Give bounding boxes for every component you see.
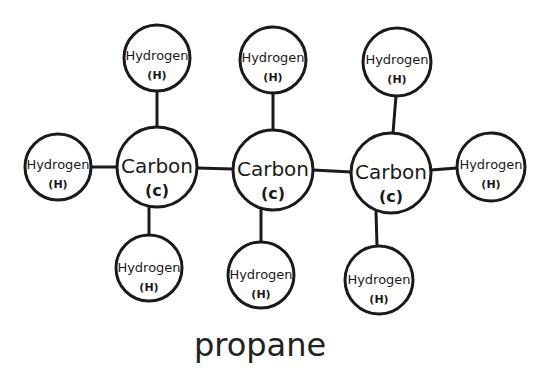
diagram-caption: propane <box>0 326 520 364</box>
svg-text:(H): (H) <box>387 73 406 86</box>
bond-c3-hright <box>431 168 457 170</box>
svg-text:Hydrogen: Hydrogen <box>241 50 304 65</box>
atom-hydrogen-bottom-3: Hydrogen (H) <box>345 246 413 314</box>
atom-hydrogen-top-3: Hydrogen (H) <box>363 28 431 96</box>
svg-text:(H): (H) <box>48 178 67 191</box>
atom-carbon-3: Carbon (c) <box>351 133 431 213</box>
svg-text:(H): (H) <box>139 281 158 294</box>
svg-text:(c): (c) <box>261 184 285 203</box>
bond-c3-hbottom3 <box>376 212 377 246</box>
bond-c2-c3 <box>313 170 351 172</box>
bond-c3-htop3 <box>393 96 396 133</box>
svg-text:Hydrogen: Hydrogen <box>459 157 522 172</box>
svg-text:Hydrogen: Hydrogen <box>365 52 428 67</box>
svg-text:Hydrogen: Hydrogen <box>125 48 188 63</box>
svg-text:Hydrogen: Hydrogen <box>117 260 180 275</box>
svg-text:(H): (H) <box>147 69 166 82</box>
atom-hydrogen-top-1: Hydrogen (H) <box>124 25 190 91</box>
atom-hydrogen-top-2: Hydrogen (H) <box>240 27 306 93</box>
bond-c1-c2 <box>197 168 233 169</box>
atom-hydrogen-left: Hydrogen (H) <box>25 134 91 200</box>
svg-text:Hydrogen: Hydrogen <box>26 157 89 172</box>
svg-text:Hydrogen: Hydrogen <box>347 272 410 287</box>
svg-text:Carbon: Carbon <box>237 157 309 181</box>
svg-text:(H): (H) <box>263 71 282 84</box>
svg-text:(H): (H) <box>251 288 270 301</box>
svg-text:Carbon: Carbon <box>355 160 427 184</box>
atom-carbon-1: Carbon (c) <box>117 127 197 207</box>
atom-carbon-2: Carbon (c) <box>233 130 313 210</box>
svg-text:Hydrogen: Hydrogen <box>229 267 292 282</box>
svg-text:Carbon: Carbon <box>121 154 193 178</box>
svg-text:(H): (H) <box>481 178 500 191</box>
svg-text:(c): (c) <box>145 181 169 200</box>
svg-text:(c): (c) <box>379 187 403 206</box>
atom-hydrogen-bottom-1: Hydrogen (H) <box>116 235 182 301</box>
atom-hydrogen-bottom-2: Hydrogen (H) <box>228 242 294 308</box>
svg-text:(H): (H) <box>369 293 388 306</box>
atom-hydrogen-right: Hydrogen (H) <box>457 133 525 201</box>
